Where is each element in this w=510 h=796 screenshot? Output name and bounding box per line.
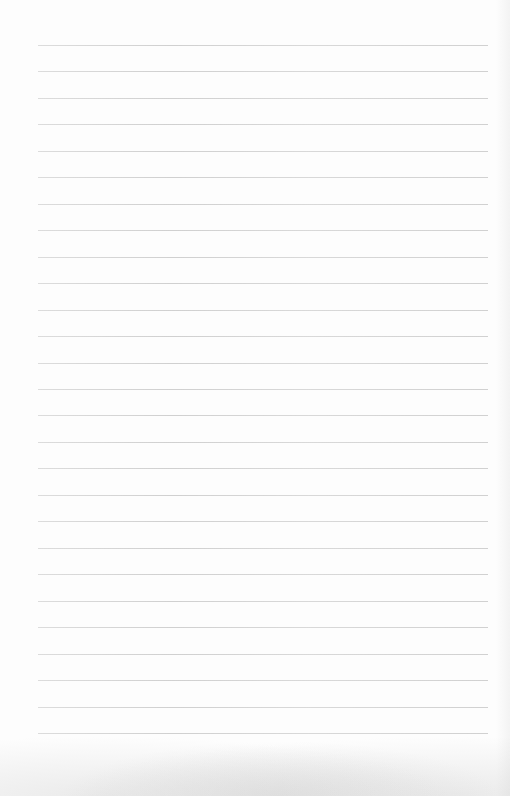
ruled-line	[38, 151, 488, 152]
ruled-line	[38, 415, 488, 416]
ruled-line	[38, 495, 488, 496]
ruled-line	[38, 98, 488, 99]
ruled-line	[38, 204, 488, 205]
ruled-line	[38, 548, 488, 549]
ruled-line	[38, 601, 488, 602]
ruled-line	[38, 257, 488, 258]
ruled-line	[38, 521, 488, 522]
ruled-line	[38, 680, 488, 681]
ruled-line	[38, 45, 488, 46]
page-edge-shadow	[496, 0, 510, 796]
ruled-line	[38, 389, 488, 390]
paper-texture	[0, 726, 510, 796]
ruled-line	[38, 574, 488, 575]
ruled-line	[38, 177, 488, 178]
ruled-line	[38, 654, 488, 655]
ruled-line	[38, 230, 488, 231]
ruled-line	[38, 733, 488, 734]
ruled-line	[38, 468, 488, 469]
ruled-line	[38, 627, 488, 628]
ruled-line	[38, 283, 488, 284]
ruled-line	[38, 442, 488, 443]
ruled-line	[38, 707, 488, 708]
ruled-line	[38, 310, 488, 311]
ruled-line	[38, 363, 488, 364]
ruled-line	[38, 124, 488, 125]
ruled-paper-sheet	[0, 0, 510, 796]
ruled-line	[38, 71, 488, 72]
ruled-line	[38, 336, 488, 337]
